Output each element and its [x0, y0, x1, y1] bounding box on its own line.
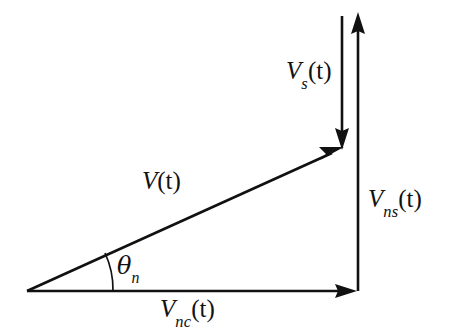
label-theta-subscript: n — [131, 269, 139, 286]
label-vns-subscript: ns — [383, 202, 398, 221]
label-v-argument: (t) — [157, 167, 181, 194]
vector-vs — [335, 16, 349, 150]
label-vns-symbol: V — [368, 185, 383, 212]
label-vs-subscript: s — [301, 74, 308, 93]
vector-vns-arrowhead — [351, 12, 365, 34]
label-vnc-argument: (t) — [191, 295, 215, 322]
label-vns: Vns(t) — [368, 186, 422, 217]
vector-vnc-arrowhead — [335, 284, 357, 298]
phasor-diagram-figure: Vs(t) Vns(t) V(t) Vnc(t) θn — [0, 0, 452, 334]
vector-vs-arrowhead — [335, 128, 349, 150]
label-vnc-symbol: V — [160, 295, 175, 322]
label-vs-symbol: V — [286, 57, 301, 84]
vector-v-arrowhead — [319, 147, 344, 160]
label-v-symbol: V — [142, 167, 157, 194]
vector-v — [27, 147, 344, 291]
label-vnc: Vnc(t) — [160, 296, 215, 327]
label-vnc-subscript: nc — [175, 312, 191, 331]
label-theta-n: θn — [117, 254, 140, 283]
angle-arc-theta-n — [105, 253, 113, 291]
label-vs: Vs(t) — [286, 58, 331, 89]
label-vs-argument: (t) — [308, 57, 332, 84]
vector-vns — [351, 12, 365, 291]
vector-diagram-canvas — [0, 0, 452, 334]
label-theta-symbol: θ — [117, 252, 131, 280]
label-vns-argument: (t) — [398, 185, 422, 212]
label-v: V(t) — [142, 168, 181, 199]
